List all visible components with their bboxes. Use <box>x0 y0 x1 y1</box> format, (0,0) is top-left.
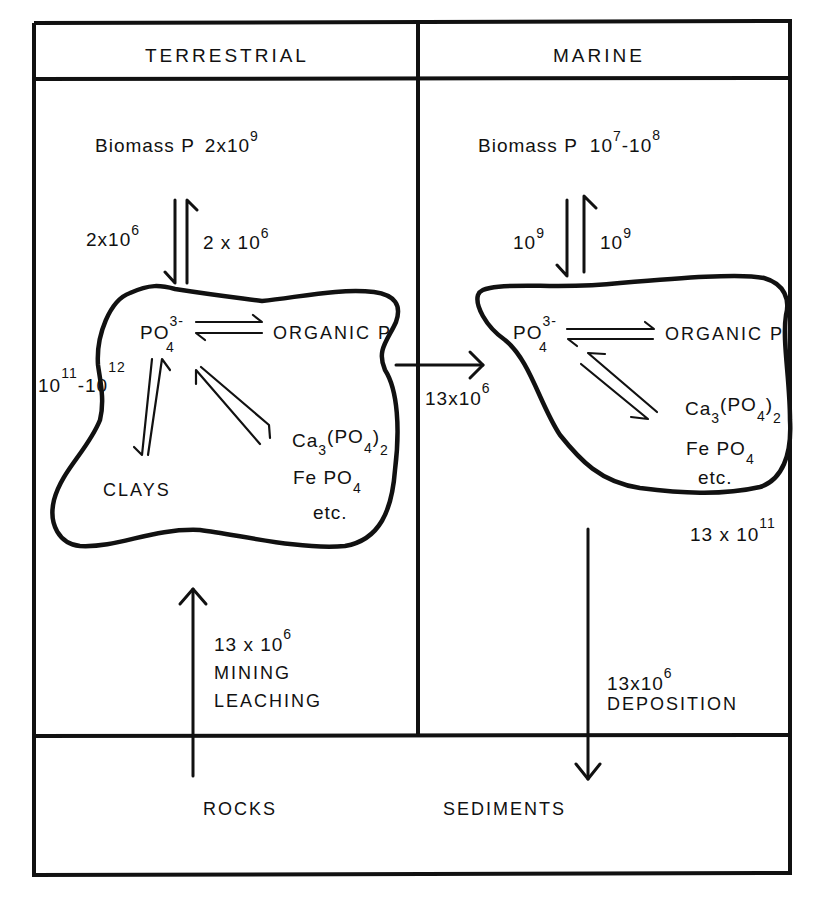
arrow-left-icon <box>568 339 653 346</box>
svg-text:13x106: 13x106 <box>607 665 673 694</box>
input-mining-label: MINING <box>214 663 291 683</box>
marine-flux-up-value: 10 <box>600 232 623 253</box>
terrestrial-to-marine-arrow <box>396 352 483 378</box>
input-exponent: 6 <box>283 626 292 642</box>
svg-text:2 x 106: 2 x 106 <box>203 225 270 253</box>
terrestrial-flux-down-exponent: 6 <box>131 222 140 238</box>
terrestrial-fe-label: Fe PO <box>293 467 353 488</box>
arrow-up-icon <box>187 200 197 283</box>
marine-biomass-flux-arrows <box>557 196 596 276</box>
input-leaching-label: LEACHING <box>214 691 322 711</box>
marine-etc: etc. <box>698 467 733 488</box>
marine-phosphate-minerals-arrows <box>581 353 657 419</box>
terrestrial-ca-label: Ca <box>292 430 318 451</box>
svg-text:Ca3(PO4)2: Ca3(PO4)2 <box>685 394 782 426</box>
ocean-pool-value: 13 x 10 <box>690 524 759 545</box>
arrow-right-icon <box>567 322 654 329</box>
arrow-down-icon <box>557 200 567 276</box>
arrow-up-left-icon <box>588 353 657 412</box>
marine-ca-label: Ca <box>685 398 711 419</box>
marine-organic-p: ORGANIC P <box>665 324 784 344</box>
terrestrial-flux-up-exponent: 6 <box>261 225 270 241</box>
header-divider <box>34 78 790 79</box>
marine-flux-down-value: 10 <box>513 232 536 253</box>
svg-text:109: 109 <box>513 225 545 253</box>
svg-text:Fe PO4: Fe PO4 <box>293 467 362 496</box>
header-marine: MARINE <box>553 45 645 66</box>
svg-text:Ca3(PO4)2: Ca3(PO4)2 <box>292 426 389 458</box>
input-value: 13 x 10 <box>214 634 283 655</box>
terrestrial-biomass: Biomass P2x109 <box>95 128 259 156</box>
soil-pool-dash: -10 <box>78 375 108 396</box>
arrow-right-icon <box>196 315 262 322</box>
svg-text:109: 109 <box>600 225 632 253</box>
terrestrial-flux-up-value: 2 x 10 <box>203 232 261 253</box>
arrow-up-left-icon <box>196 370 260 444</box>
svg-text:Fe PO4: Fe PO4 <box>686 438 755 467</box>
marine-phosphate-charge: 3- <box>542 313 556 329</box>
svg-text:13 x 106: 13 x 106 <box>214 626 292 655</box>
ocean-pool-exponent: 11 <box>759 515 776 531</box>
terrestrial-clays: CLAYS <box>103 480 171 500</box>
svg-text:Biomass P2x109: Biomass P2x109 <box>95 128 259 156</box>
arrow-down-right-icon <box>201 367 270 438</box>
terrestrial-biomass-value: 2x10 <box>205 135 250 156</box>
header-terrestrial: TERRESTRIAL <box>145 45 309 66</box>
terrestrial-phosphate-minerals-arrows <box>196 367 270 444</box>
svg-text:1011-1012: 1011-1012 <box>38 359 126 396</box>
outer-border-top-right <box>34 21 790 733</box>
terrestrial-phosphate-clays-arrows <box>134 359 170 455</box>
terrestrial-biomass-exponent: 9 <box>250 128 259 144</box>
marine-phosphate-organic-arrows <box>567 322 654 346</box>
soil-pool-base-a: 10 <box>38 375 61 396</box>
phosphorus-cycle-diagram: TERRESTRIAL MARINE Biomass P2x109 2x106 … <box>0 0 817 897</box>
arrow-up-icon <box>584 196 596 272</box>
terrestrial-biomass-label: Biomass P <box>95 135 195 156</box>
terrestrial-phosphate-charge: 3- <box>169 313 183 329</box>
svg-text:13 x 1011: 13 x 1011 <box>690 515 776 545</box>
rocks-label: ROCKS <box>203 799 277 819</box>
output-deposition-label: DEPOSITION <box>607 694 738 714</box>
terrestrial-etc: etc. <box>313 502 348 523</box>
svg-text:PO3-: PO3- <box>513 313 557 343</box>
terrestrial-flux-down-value: 2x10 <box>86 229 131 250</box>
arrow-down-right-icon <box>581 364 648 419</box>
transfer-exponent: 6 <box>482 380 491 396</box>
marine-pool-outline <box>477 276 790 493</box>
svg-text:PO3-: PO3- <box>140 313 184 343</box>
arrow-down-icon <box>165 200 175 283</box>
output-value: 13x10 <box>607 673 664 694</box>
sediment-band-divider <box>34 735 790 736</box>
marine-fe-label: Fe PO <box>686 438 746 459</box>
marine-phosphate-subscript: 4 <box>539 339 547 355</box>
svg-text:2x106: 2x106 <box>86 222 140 250</box>
terrestrial-biomass-flux-arrows <box>165 200 197 283</box>
sediments-label: SEDIMENTS <box>443 799 566 819</box>
mining-leaching-arrow <box>180 589 206 776</box>
output-exponent: 6 <box>664 665 673 681</box>
terrestrial-organic-p: ORGANIC P <box>273 323 392 343</box>
terrestrial-phosphate-organic-arrows <box>196 315 262 340</box>
svg-text:13x106: 13x106 <box>425 380 491 409</box>
arrow-left-icon <box>196 333 262 340</box>
transfer-value: 13x10 <box>425 388 482 409</box>
marine-biomass-label: Biomass P <box>478 135 578 156</box>
terrestrial-phosphate-subscript: 4 <box>166 339 174 355</box>
svg-text:Biomass P107-108: Biomass P107-108 <box>478 127 661 156</box>
deposition-arrow <box>576 529 600 779</box>
